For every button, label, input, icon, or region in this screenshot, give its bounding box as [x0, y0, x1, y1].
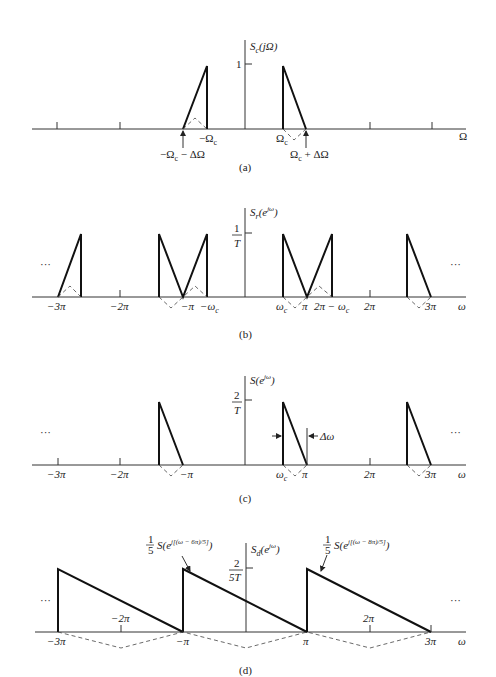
spectrum-pos: [283, 66, 306, 129]
caption: (c): [239, 492, 252, 505]
ellipsis-right: ···: [450, 258, 461, 270]
svg-text:2: 2: [234, 389, 240, 401]
y-axis-label: Sc(jΩ): [250, 40, 278, 55]
annotation-shift-6pi: S(ej[(ω − 6π)/5]): [157, 538, 213, 552]
svg-text:π: π: [302, 300, 308, 312]
svg-text:2π: 2π: [364, 468, 376, 480]
svg-text:−3π: −3π: [47, 468, 66, 480]
delta-omega-label: Δω: [319, 430, 334, 442]
svg-text:−Ωc: −Ωc: [199, 132, 217, 147]
svg-text:···: ···: [40, 594, 51, 606]
svg-text:−π: −π: [181, 300, 194, 312]
svg-text:−Ωc − ΔΩ: −Ωc − ΔΩ: [160, 148, 205, 163]
svg-text:1: 1: [234, 222, 240, 234]
svg-text:ωc: ωc: [276, 300, 288, 315]
spectrum-figure: Sc(jΩ) 1 −Ωc Ωc −Ωc − ΔΩ Ωc + ΔΩ Ω (a) S…: [0, 0, 496, 677]
svg-text:−2π: −2π: [111, 612, 130, 624]
svg-text:−2π: −2π: [110, 468, 129, 480]
svg-text:S(ejω): S(ejω): [250, 373, 275, 387]
svg-text:ωc: ωc: [276, 468, 288, 483]
y-tick-label: 1: [236, 58, 242, 70]
panel-b: Sr(ejω) 1 T ··· ··· −3π −2π −π −ωc ωc π …: [32, 205, 466, 341]
svg-text:3π: 3π: [424, 300, 437, 312]
svg-text:−3π: −3π: [47, 300, 66, 312]
svg-text:···: ···: [450, 594, 461, 606]
x-axis-label: Ω: [459, 130, 467, 142]
svg-text:2π: 2π: [364, 300, 376, 312]
svg-text:−2π: −2π: [110, 300, 129, 312]
svg-text:5: 5: [325, 544, 331, 556]
svg-text:Sr(ejω): Sr(ejω): [250, 205, 278, 221]
svg-text:2π − ωc: 2π − ωc: [314, 300, 350, 315]
svg-text:Ωc: Ωc: [276, 132, 288, 147]
panel-d: 1 5 S(ej[(ω − 6π)/5]) 1 5 S(ej[(ω − 8π)/…: [35, 533, 466, 677]
caption: (d): [239, 664, 252, 677]
ellipsis-left: ···: [40, 258, 51, 270]
svg-text:−3π: −3π: [47, 635, 66, 647]
svg-text:−π: −π: [176, 635, 189, 647]
svg-text:T: T: [234, 237, 241, 249]
svg-text:3π: 3π: [424, 635, 437, 647]
svg-text:ω: ω: [458, 468, 466, 480]
svg-text:π: π: [303, 635, 309, 647]
svg-text:π: π: [302, 468, 308, 480]
svg-text:···: ···: [40, 426, 51, 438]
svg-text:2: 2: [234, 557, 240, 569]
svg-text:ω: ω: [458, 300, 466, 312]
svg-text:ω: ω: [458, 635, 466, 647]
svg-text:5T: 5T: [229, 571, 242, 583]
annotation-shift-8pi: S(ej[(ω − 8π)/5]): [334, 538, 390, 552]
caption: (b): [239, 328, 252, 341]
svg-text:···: ···: [450, 426, 461, 438]
svg-text:−ωc: −ωc: [200, 300, 219, 315]
svg-text:T: T: [234, 404, 241, 416]
svg-text:2π: 2π: [363, 612, 375, 624]
panel-c: Δω S(ejω) 2 T ··· ··· −3π −2π −π ωc π 2π…: [32, 373, 466, 505]
caption: (a): [239, 161, 252, 174]
svg-text:Sd(ejω): Sd(ejω): [251, 542, 280, 558]
svg-text:Ωc + ΔΩ: Ωc + ΔΩ: [290, 148, 329, 163]
svg-text:5: 5: [148, 544, 154, 556]
panel-a: Sc(jΩ) 1 −Ωc Ωc −Ωc − ΔΩ Ωc + ΔΩ Ω (a): [32, 40, 467, 174]
svg-text:−π: −π: [180, 468, 193, 480]
svg-text:3π: 3π: [424, 468, 437, 480]
spectrum-neg: [183, 66, 207, 129]
